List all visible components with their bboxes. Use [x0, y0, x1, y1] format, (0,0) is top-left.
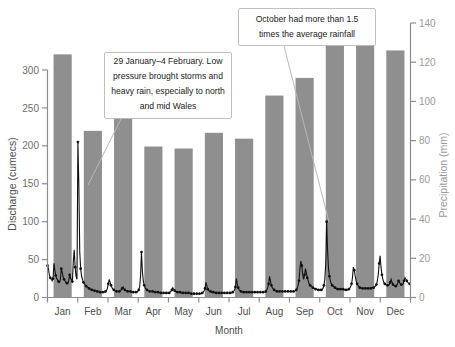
discharge-point — [364, 287, 367, 290]
discharge-point — [168, 292, 171, 295]
discharge-point — [253, 291, 256, 294]
discharge-point — [129, 290, 132, 293]
discharge-point — [400, 283, 403, 286]
discharge-point — [281, 290, 284, 293]
discharge-point — [342, 288, 345, 291]
discharge-point — [245, 291, 248, 294]
discharge-point — [383, 283, 386, 286]
discharge-point — [358, 286, 361, 289]
discharge-point — [101, 291, 104, 294]
discharge-point — [201, 292, 204, 295]
annotation-january-line-3: heavy rain, especially to north — [111, 86, 225, 96]
right-axis-ticks: 020406080100120140 — [411, 18, 437, 304]
discharge-point — [331, 284, 334, 287]
discharge-point — [220, 292, 223, 295]
left-tick-label: 300 — [22, 65, 39, 76]
x-month-label: May — [174, 306, 193, 317]
discharge-point — [159, 292, 162, 295]
discharge-point — [237, 286, 240, 289]
annotation-october-line-1: October had more than 1.5 — [256, 14, 359, 24]
discharge-point — [63, 278, 66, 281]
discharge-point — [126, 290, 129, 293]
x-month-label: Nov — [356, 306, 374, 317]
precipitation-bar — [356, 25, 374, 298]
discharge-point — [403, 279, 406, 282]
discharge-point — [303, 273, 306, 276]
discharge-point — [68, 273, 71, 276]
discharge-point — [356, 283, 359, 286]
discharge-point — [66, 282, 69, 285]
discharge-point — [115, 290, 118, 293]
discharge-point — [154, 291, 157, 294]
discharge-point — [300, 264, 303, 267]
discharge-point — [187, 292, 190, 295]
discharge-point — [79, 267, 82, 270]
precipitation-bar — [175, 148, 193, 297]
discharge-point — [367, 287, 370, 290]
discharge-point — [328, 275, 331, 278]
discharge-point — [218, 292, 221, 295]
discharge-point — [151, 290, 154, 293]
right-tick-label: 100 — [419, 96, 436, 107]
discharge-point — [265, 290, 268, 293]
discharge-point — [88, 287, 91, 290]
discharge-point — [71, 280, 74, 283]
discharge-point — [107, 283, 110, 286]
discharge-point — [226, 292, 229, 295]
discharge-point — [381, 273, 384, 276]
discharge-point — [397, 279, 400, 282]
discharge-point — [372, 286, 375, 289]
annotation-january-line-2: pressure brought storms and — [113, 71, 223, 81]
discharge-point — [195, 292, 198, 295]
discharge-point — [193, 292, 196, 295]
discharge-point — [353, 269, 356, 272]
discharge-point — [99, 291, 102, 294]
discharge-point — [52, 277, 55, 280]
discharge-point — [104, 290, 107, 293]
right-tick-label: 20 — [419, 253, 431, 264]
discharge-point — [276, 290, 279, 293]
discharge-point — [173, 289, 176, 292]
left-tick-label: 150 — [22, 178, 39, 189]
x-month-label: Mar — [115, 306, 133, 317]
discharge-point — [77, 141, 80, 144]
discharge-point — [90, 289, 93, 292]
discharge-point — [284, 290, 287, 293]
discharge-point — [350, 283, 353, 286]
precipitation-bar — [235, 139, 253, 298]
discharge-point — [212, 291, 215, 294]
discharge-point — [85, 285, 88, 288]
discharge-point — [49, 276, 52, 279]
discharge-point — [392, 283, 395, 286]
discharge-point — [140, 251, 143, 254]
x-month-label: Jul — [238, 306, 251, 317]
discharge-point — [179, 291, 182, 294]
right-axis: 020406080100120140 Precipitation (mm) — [411, 18, 450, 304]
discharge-point — [375, 283, 378, 286]
discharge-point — [278, 290, 281, 293]
discharge-point — [311, 286, 314, 289]
discharge-point — [314, 288, 317, 291]
x-month-label: Sep — [296, 306, 314, 317]
discharge-point — [93, 289, 96, 292]
annotation-january-line-1: 29 January–4 February. Low — [114, 56, 224, 66]
discharge-point — [295, 289, 298, 292]
x-month-label: Feb — [84, 306, 102, 317]
discharge-point — [242, 291, 245, 294]
discharge-point — [165, 292, 168, 295]
discharge-point — [287, 290, 290, 293]
x-month-label: Jun — [206, 306, 222, 317]
discharge-point — [124, 289, 127, 292]
precipitation-bar — [54, 54, 72, 297]
chart-canvas: 050100150200250300 Discharge (cumecs) 02… — [0, 0, 455, 347]
x-month-label: Oct — [327, 306, 343, 317]
discharge-point — [345, 289, 348, 292]
discharge-point — [320, 289, 323, 292]
left-axis-title: Discharge (cumecs) — [6, 137, 18, 230]
discharge-point — [267, 283, 270, 286]
discharge-point — [339, 288, 342, 291]
discharge-point — [206, 288, 209, 291]
discharge-point — [325, 220, 328, 223]
discharge-point — [289, 290, 292, 293]
left-axis-ticks: 050100150200250300 — [22, 65, 47, 304]
